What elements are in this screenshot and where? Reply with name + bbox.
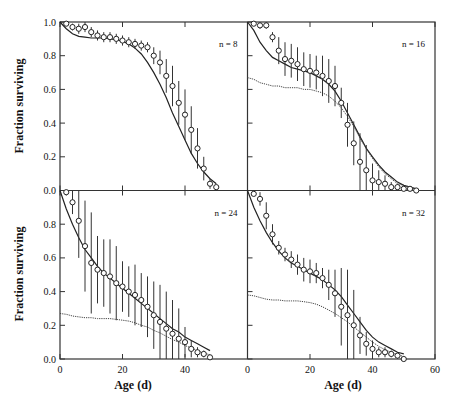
x-tick-label: 20 bbox=[305, 364, 315, 375]
x-tick-label: 60 bbox=[430, 364, 440, 375]
y-tick-label: 0.4 bbox=[44, 286, 57, 297]
data-point bbox=[176, 100, 181, 105]
data-point bbox=[114, 36, 119, 41]
x-tick-label: 0 bbox=[245, 364, 250, 375]
model-curve-dotted bbox=[248, 78, 417, 189]
y-tick-label: 0.6 bbox=[44, 84, 57, 95]
data-point bbox=[145, 45, 150, 50]
y-axis-title-top: Fraction surviving bbox=[12, 59, 26, 154]
data-point bbox=[89, 260, 94, 265]
data-point bbox=[295, 262, 300, 267]
data-point bbox=[351, 323, 356, 328]
data-point bbox=[289, 58, 294, 63]
data-point bbox=[276, 48, 281, 53]
data-point bbox=[376, 350, 381, 355]
data-point bbox=[295, 62, 300, 67]
data-point bbox=[151, 53, 156, 58]
survival-chart-figure: 0.00.20.40.60.81.00.00.20.40.60.80204002… bbox=[0, 0, 454, 406]
model-curve-solid bbox=[248, 22, 417, 189]
data-point bbox=[189, 346, 194, 351]
data-point bbox=[76, 218, 81, 223]
data-point bbox=[89, 30, 94, 35]
data-point bbox=[270, 35, 275, 40]
panel-bottom-right: n = 32 bbox=[248, 191, 426, 362]
data-point bbox=[376, 179, 381, 184]
data-point bbox=[70, 200, 75, 205]
y-tick-label: 0.8 bbox=[44, 219, 57, 230]
data-point bbox=[332, 291, 337, 296]
data-point bbox=[307, 68, 312, 73]
data-point bbox=[251, 21, 256, 26]
y-tick-label: 0.6 bbox=[44, 252, 57, 263]
data-point bbox=[145, 304, 150, 309]
y-axis-title-bottom: Fraction surviving bbox=[12, 227, 26, 322]
data-point bbox=[264, 213, 269, 218]
data-point bbox=[164, 326, 169, 331]
data-point bbox=[107, 274, 112, 279]
data-point bbox=[264, 23, 269, 28]
panel-n-label: n = 16 bbox=[402, 39, 426, 49]
data-point bbox=[282, 252, 287, 257]
data-point bbox=[364, 341, 369, 346]
data-point bbox=[407, 186, 412, 191]
tick-labels: 0.00.20.40.60.81.00.00.20.40.60.80204002… bbox=[44, 17, 441, 376]
data-point bbox=[107, 35, 112, 40]
data-point bbox=[382, 181, 387, 186]
data-point bbox=[364, 168, 369, 173]
data-point bbox=[314, 270, 319, 275]
data-point bbox=[270, 232, 275, 237]
data-point bbox=[357, 159, 362, 164]
data-point bbox=[64, 190, 69, 195]
data-point bbox=[157, 319, 162, 324]
data-point bbox=[257, 196, 262, 201]
x-tick-label: 0 bbox=[58, 364, 63, 375]
data-point bbox=[332, 83, 337, 88]
y-tick-label: 1.0 bbox=[44, 17, 57, 28]
data-point bbox=[320, 73, 325, 78]
data-point bbox=[82, 244, 87, 249]
data-point bbox=[339, 100, 344, 105]
data-point bbox=[139, 297, 144, 302]
data-point bbox=[401, 356, 406, 361]
data-point bbox=[276, 245, 281, 250]
data-point bbox=[182, 112, 187, 117]
data-point bbox=[351, 141, 356, 146]
panel-top-left: n = 8 bbox=[60, 21, 238, 190]
data-point bbox=[214, 185, 219, 190]
model-curve-dotted bbox=[248, 295, 404, 357]
data-point bbox=[370, 178, 375, 183]
data-point bbox=[307, 269, 312, 274]
data-point bbox=[301, 67, 306, 72]
x-tick-label: 40 bbox=[368, 364, 378, 375]
data-point bbox=[301, 267, 306, 272]
data-point bbox=[345, 122, 350, 127]
data-point bbox=[182, 340, 187, 345]
y-tick-label: 0.4 bbox=[44, 118, 57, 129]
data-point bbox=[170, 331, 175, 336]
data-point bbox=[195, 146, 200, 151]
data-point bbox=[345, 313, 350, 318]
panel-n-label: n = 32 bbox=[402, 208, 425, 218]
panel-n-label: n = 8 bbox=[219, 39, 238, 49]
data-point bbox=[257, 23, 262, 28]
data-point bbox=[207, 181, 212, 186]
data-point bbox=[389, 351, 394, 356]
data-point bbox=[151, 313, 156, 318]
data-point bbox=[289, 257, 294, 262]
x-tick-label: 20 bbox=[118, 364, 128, 375]
x-axis-title-right: Age (d) bbox=[324, 378, 362, 392]
panel-n-label: n = 24 bbox=[214, 208, 238, 218]
data-point bbox=[126, 289, 131, 294]
model-curve-solid bbox=[60, 22, 216, 184]
data-point bbox=[195, 350, 200, 355]
data-point bbox=[101, 35, 106, 40]
y-tick-label: 0.0 bbox=[44, 354, 57, 365]
data-point bbox=[101, 270, 106, 275]
data-point bbox=[414, 188, 419, 193]
x-axis-title-left: Age (d) bbox=[114, 378, 152, 392]
data-point bbox=[176, 336, 181, 341]
model-curve-solid bbox=[248, 191, 404, 354]
data-point bbox=[157, 60, 162, 65]
data-point bbox=[126, 40, 131, 45]
data-point bbox=[201, 166, 206, 171]
